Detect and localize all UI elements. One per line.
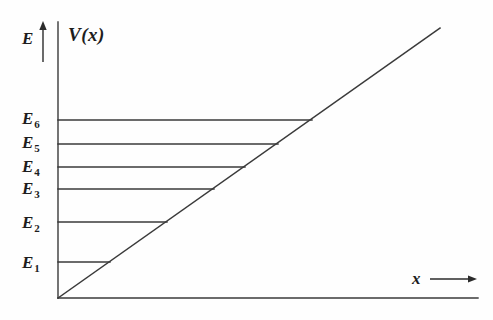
energy-level-label-6-sub: 6	[34, 118, 40, 130]
energy-level-label-4-sub: 4	[34, 166, 40, 178]
energy-level-label-5-sub: 5	[34, 142, 40, 154]
energy-level-label-4: E4	[22, 158, 39, 175]
y-axis-arrow-icon	[39, 21, 46, 62]
energy-level-label-2-base: E	[22, 213, 33, 232]
energy-level-label-5-base: E	[22, 133, 33, 152]
y-axis-label: E	[22, 30, 33, 47]
energy-level-label-6: E6	[22, 110, 39, 127]
energy-level-label-1-base: E	[22, 253, 33, 272]
energy-level-label-2-sub: 2	[34, 222, 40, 234]
potential-label: V(x)	[68, 25, 105, 44]
x-axis-arrow-icon	[430, 275, 477, 282]
x-axis-label: x	[412, 270, 421, 287]
energy-level-label-3-base: E	[22, 179, 33, 198]
energy-level-label-2: E2	[22, 214, 39, 231]
potential-line	[58, 28, 440, 298]
energy-level-label-6-base: E	[22, 109, 33, 128]
energy-level-label-1: E1	[22, 254, 39, 271]
energy-level-figure: E V(x) x E6 E5 E4 E3 E2 E1	[0, 0, 493, 320]
energy-level-label-1-sub: 1	[34, 262, 40, 274]
energy-level-label-3-sub: 3	[34, 188, 40, 200]
energy-level-label-5: E5	[22, 134, 39, 151]
energy-level-label-3: E3	[22, 180, 39, 197]
energy-level-label-4-base: E	[22, 157, 33, 176]
